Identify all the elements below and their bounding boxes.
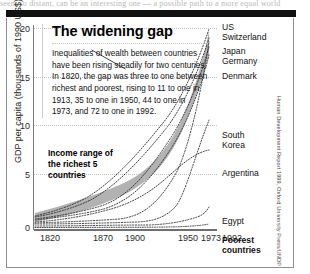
x-tick-1973: 1973	[201, 233, 221, 243]
x-tick-1870: 1870	[93, 233, 113, 243]
label-japan: Japan	[222, 46, 245, 56]
y-tick-10: 10	[6, 122, 30, 131]
x-axis-baseline	[34, 229, 217, 231]
page-bleed-text: seem so distant, can be an interesting o…	[0, 0, 296, 8]
label-poorest-countries: Poorest countries	[222, 235, 261, 255]
x-tick-1950: 1950	[178, 233, 198, 243]
source-credit: Human Development Report 1999, Oxford Un…	[276, 96, 282, 246]
x-tick-1820: 1820	[40, 233, 60, 243]
label-denmark: Denmark	[222, 71, 257, 81]
headline-divider	[52, 43, 208, 44]
y-tick-15: 15	[6, 74, 30, 83]
income-range-annotation: Income range of the richest 5 countries	[48, 148, 122, 180]
label-south-korea: South Korea	[222, 130, 245, 150]
y-tick-20: 20	[6, 25, 30, 34]
label-switzerland: Switzerland	[222, 32, 266, 42]
label-argentina: Argentina	[222, 168, 259, 178]
chart-blurb: Inequalities of wealth between countries…	[52, 48, 208, 118]
chart-figure: seem so distant, can be an interesting o…	[0, 0, 310, 274]
label-germany: Germany	[222, 56, 257, 66]
y-tick-5: 5	[6, 171, 30, 180]
y-tick-0: 0	[6, 224, 30, 233]
masthead-rule	[6, 10, 296, 17]
label-egypt: Egypt	[222, 216, 244, 226]
y-axis-ticks: 20 15 10 5 0	[4, 25, 30, 230]
headline-block: The widening gap Inequalities of wealth …	[42, 24, 208, 118]
label-us: US	[222, 22, 234, 32]
x-tick-1900: 1900	[125, 233, 145, 243]
chart-headline: The widening gap	[52, 24, 208, 40]
